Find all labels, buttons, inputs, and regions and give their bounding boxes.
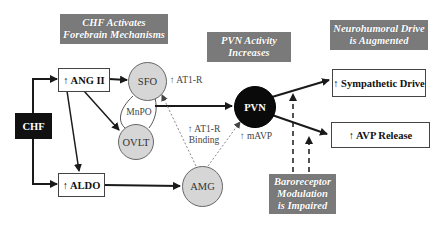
- label-at1r-binding-line2: Binding: [182, 135, 226, 146]
- node-sfo: SFO: [128, 62, 167, 101]
- node-sympathetic-drive: ↑ Sympathetic Drive: [332, 69, 426, 97]
- header-neurohumoral: Neurohumoral Drive is Augmented: [330, 20, 428, 50]
- arrow-ang2-to-sfo: [109, 79, 127, 80]
- header-pvn-line2: Increases: [207, 47, 291, 59]
- label-at1r-binding-line1: ↑ AT1-R: [182, 124, 226, 135]
- arrow-ang2-to-ovlt: [84, 91, 119, 130]
- label-mnpo: MnPO: [122, 107, 156, 118]
- arrow-ang2-to-aldo: [67, 91, 79, 171]
- header-baroreceptor: Baroreceptor Modulation is Impaired: [269, 174, 336, 214]
- node-ovlt: OVLT: [118, 124, 154, 160]
- header-baroreceptor-line1: Baroreceptor: [269, 176, 336, 188]
- header-neurohumoral-line1: Neurohumoral Drive: [330, 23, 428, 35]
- node-ang2: ↑ ANG II: [58, 68, 110, 92]
- header-pvn: PVN Activity Increases: [207, 32, 291, 62]
- arrow-pvn-to-sympathetic: [272, 80, 329, 97]
- header-forebrain: CHF Activates Forebrain Mechanisms: [60, 14, 168, 44]
- header-forebrain-line2: Forebrain Mechanisms: [60, 29, 168, 41]
- label-at1r: ↑ AT1-R: [166, 75, 206, 86]
- node-amg: AMG: [182, 166, 223, 207]
- neurohumoral-diagram: CHF Activates Forebrain Mechanisms PVN A…: [0, 0, 446, 225]
- header-forebrain-line1: CHF Activates: [60, 17, 168, 29]
- arrow-chf-to-aldo: [33, 137, 57, 184]
- arrow-chf-to-ang2: [33, 79, 57, 113]
- header-neurohumoral-line2: is Augmented: [330, 35, 428, 47]
- node-chf: CHF: [15, 113, 52, 139]
- header-baroreceptor-line3: is Impaired: [269, 200, 336, 212]
- node-pvn: PVN: [234, 86, 276, 128]
- label-at1r-binding: ↑ AT1-R Binding: [182, 124, 226, 146]
- header-pvn-line1: PVN Activity: [207, 35, 291, 47]
- header-baroreceptor-line2: Modulation: [269, 188, 336, 200]
- node-aldo: ↑ ALDO: [58, 173, 105, 197]
- arrow-pvn-to-avp: [272, 115, 327, 134]
- arrow-aldo-to-amg: [104, 185, 180, 186]
- node-avp-release: ↑ AVP Release: [331, 122, 430, 148]
- label-mavp: ↑ mAVP: [234, 131, 278, 142]
